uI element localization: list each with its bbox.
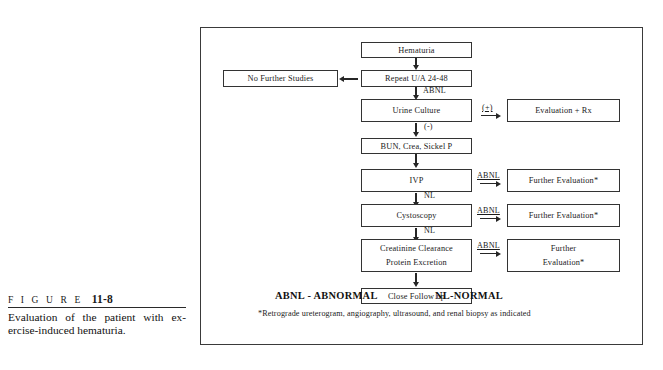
figure-caption-text: Evaluation of the patient with ex-ercise… [8, 311, 186, 338]
legend-nl: NL-NORMAL [435, 290, 503, 301]
node-evaluation-rx: Evaluation + Rx [507, 99, 620, 122]
figure-label-line: F I G U R E 11-8 [8, 293, 186, 308]
node-label: Evaluation + Rx [535, 105, 592, 116]
edge-label-abnl-creatinine: ABNL [477, 241, 500, 250]
arrow-bun-to-ivp [415, 154, 417, 163]
edge-label-nl-ivp: NL [424, 191, 435, 200]
node-label: Cystoscopy [396, 210, 436, 221]
node-label-line1: Further [551, 243, 576, 254]
node-further-evaluation-creatinine: Further Evaluation* [507, 239, 620, 272]
node-label: Further Evaluation* [529, 210, 598, 221]
figure-number: 11-8 [92, 293, 113, 305]
figure-caption: F I G U R E 11-8 Evaluation of the patie… [8, 293, 186, 338]
legend-abnl: ABNL - ABNORMAL [275, 290, 378, 301]
edge-label-negative: (-) [424, 122, 433, 131]
edge-label-abnl-ivp: ABNL [477, 171, 500, 180]
edge-label-nl-cystoscopy: NL [424, 226, 435, 235]
node-cystoscopy: Cystoscopy [361, 204, 472, 227]
node-bun-crea-sickel: BUN, Crea, Sickel P [361, 138, 472, 154]
figure-footnote: *Retrograde ureterogram, angiography, ul… [258, 309, 531, 318]
node-label: Hematuria [398, 45, 434, 56]
arrow-cystoscopy-to-creatinine [415, 228, 417, 237]
node-label-line2: Protein Excretion [386, 257, 447, 268]
edge-label-abnl-cystoscopy: ABNL [477, 206, 500, 215]
arrow-creatinine-to-close-follow-up [415, 273, 417, 282]
node-label: No Further Studies [248, 73, 314, 84]
node-urine-culture: Urine Culture [361, 99, 472, 122]
arrow-hematuria-to-repeat [415, 58, 417, 65]
arrow-ivp-to-cystoscopy [415, 193, 417, 202]
node-repeat-ua: Repeat U/A 24-48 [361, 70, 472, 87]
node-no-further-studies: No Further Studies [223, 70, 338, 87]
node-creatinine-clearance: Creatinine Clearance Protein Excretion [361, 239, 472, 272]
node-ivp: IVP [361, 169, 472, 192]
node-label: Repeat U/A 24-48 [385, 73, 448, 84]
edge-label-positive: (+) [482, 103, 493, 112]
node-label: Further Evaluation* [529, 175, 598, 186]
node-further-evaluation-cystoscopy: Further Evaluation* [507, 204, 620, 227]
node-label-line1: Creatinine Clearance [380, 243, 453, 254]
arrow-ivp-to-further-evaluation [480, 183, 496, 184]
figure-word: F I G U R E [8, 295, 83, 305]
node-hematuria: Hematuria [361, 42, 472, 58]
arrow-repeat-to-urine-culture [415, 87, 417, 95]
node-label-line2: Evaluation* [543, 257, 585, 268]
edge-label-abnl-repeat: ABNL [423, 86, 446, 95]
node-label: Urine Culture [393, 105, 441, 116]
arrow-urine-culture-to-bun [415, 123, 417, 132]
arrow-urine-culture-to-evaluation-rx [481, 115, 496, 116]
arrow-repeat-to-no-further-studies [344, 78, 358, 80]
figure-frame: No Further Studies Hematuria Repeat U/A … [200, 27, 643, 345]
node-further-evaluation-ivp: Further Evaluation* [507, 169, 620, 192]
arrow-cystoscopy-to-further-evaluation [480, 218, 496, 219]
node-label: IVP [410, 175, 424, 186]
node-label: BUN, Crea, Sickel P [381, 141, 453, 152]
arrow-creatinine-to-further-evaluation [480, 253, 496, 254]
